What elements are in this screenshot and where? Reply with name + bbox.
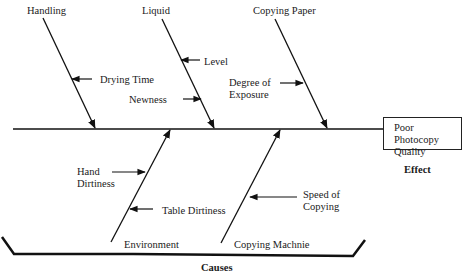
bone-copying-paper	[275, 19, 327, 128]
effect-box: Poor Photocopy Quality	[383, 117, 462, 150]
category-handling: Handling	[27, 5, 66, 17]
cause-table-dirtiness: Table Dirtiness	[162, 205, 226, 217]
cause-drying-time: Drying Time	[100, 74, 154, 86]
category-environment: Environment	[124, 239, 179, 251]
cause-speed-of-copying: Speed of Copying	[303, 189, 340, 213]
causes-bracket	[2, 237, 365, 256]
cause-newness: Newness	[129, 94, 167, 106]
category-copying-machine: Copying Machnie	[234, 239, 310, 251]
bone-handling	[43, 18, 95, 128]
causes-caption: Causes	[201, 262, 233, 274]
category-liquid: Liquid	[142, 5, 170, 17]
effect-text: Poor Photocopy Quality	[394, 122, 461, 158]
cause-hand-dirtiness: Hand Dirtiness	[77, 166, 115, 190]
cause-degree-of-exposure: Degree of Exposure	[229, 77, 271, 101]
cause-level: Level	[204, 56, 228, 68]
bone-liquid	[162, 19, 214, 128]
category-copying-paper: Copying Paper	[253, 5, 316, 17]
bone-environment	[111, 130, 170, 242]
effect-caption: Effect	[404, 164, 431, 176]
bone-copying-machine	[221, 130, 280, 243]
